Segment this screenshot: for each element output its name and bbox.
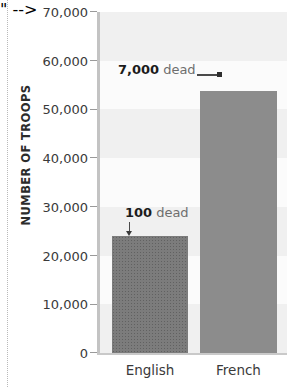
y-axis-tick-label: 30,000 (26, 199, 88, 214)
annotation-english-word: dead (156, 205, 188, 220)
y-axis-tick-mark (90, 109, 97, 110)
annotation-french-leader-line (197, 74, 218, 76)
bar-chart: NUMBER OF TROOPS 010,00020,00030,00040,0… (0, 0, 297, 387)
bar-french[interactable] (200, 91, 277, 353)
y-axis-tick-mark (90, 304, 97, 305)
y-axis-tick-mark (90, 255, 97, 256)
y-axis-spine (97, 12, 100, 354)
y-axis-tick-label: 10,000 (26, 297, 88, 312)
annotation-english-arrowhead-icon (126, 231, 132, 236)
x-axis-label-french: French (200, 362, 277, 378)
annotation-french-word: dead (163, 62, 195, 77)
x-axis-label-english: English (112, 362, 188, 378)
annotation-french-value: 7,000 (118, 62, 159, 77)
annotation-french-arrowhead-icon (217, 72, 222, 77)
y-axis-tick-label: 40,000 (26, 151, 88, 166)
y-axis-tick-mark (90, 11, 97, 12)
y-axis-tick-mark (90, 157, 97, 158)
annotation-english-dead: 100dead (125, 205, 189, 220)
y-axis-tick-labels: 010,00020,00030,00040,00050,00060,00070,… (26, 0, 88, 387)
x-axis-baseline (97, 353, 287, 355)
annotation-english-value: 100 (125, 205, 152, 220)
y-axis-tick-label: 70,000 (26, 5, 88, 20)
y-axis-tick-label: 50,000 (26, 102, 88, 117)
y-axis-tick-label: 0 (26, 346, 88, 361)
y-axis-tick-mark (90, 60, 97, 61)
bar-english[interactable] (112, 236, 188, 353)
background-band (100, 12, 287, 61)
y-axis-tick-mark (90, 352, 97, 353)
y-axis-tick-label: 20,000 (26, 248, 88, 263)
y-axis-tick-mark (90, 206, 97, 207)
y-axis-tick-label: 60,000 (26, 53, 88, 68)
page-edge-dotted-rule (7, 0, 8, 387)
annotation-french-dead: 7,000dead (118, 62, 196, 77)
